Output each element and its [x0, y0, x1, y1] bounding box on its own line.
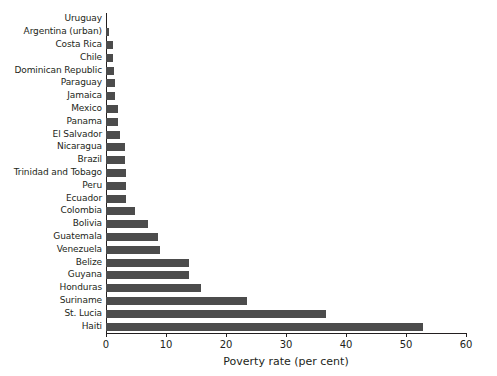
x-axis-tick — [166, 333, 167, 337]
x-axis-tick — [106, 333, 107, 337]
category-label: Trinidad and Tobago — [0, 168, 102, 177]
category-label: Jamaica — [0, 91, 102, 100]
bar-row — [106, 179, 466, 192]
bar-row — [106, 205, 466, 218]
category-label: El Salvador — [0, 130, 102, 139]
bar — [106, 105, 118, 113]
category-label: St. Lucia — [0, 309, 102, 318]
category-label: Nicaragua — [0, 142, 102, 151]
x-axis-tick-label: 40 — [331, 339, 361, 350]
bar — [106, 207, 135, 215]
category-label: Peru — [0, 181, 102, 190]
category-label: Paraguay — [0, 78, 102, 87]
bar — [106, 271, 189, 279]
x-axis-title: Poverty rate (per cent) — [106, 355, 466, 368]
bar — [106, 233, 158, 241]
x-axis-tick-label: 10 — [151, 339, 181, 350]
bar — [106, 323, 423, 331]
x-axis-tick — [346, 333, 347, 337]
x-axis-tick — [466, 333, 467, 337]
bar-row — [106, 282, 466, 295]
x-axis-tick-label: 20 — [211, 339, 241, 350]
bar-row — [106, 103, 466, 116]
bar-row — [106, 115, 466, 128]
bar — [106, 220, 148, 228]
bar — [106, 67, 114, 75]
bar — [106, 310, 326, 318]
category-label: Suriname — [0, 296, 102, 305]
x-axis-tick — [286, 333, 287, 337]
category-label: Ecuador — [0, 194, 102, 203]
x-axis-tick — [226, 333, 227, 337]
bar-row — [106, 26, 466, 39]
x-axis-tick-label: 0 — [91, 339, 121, 350]
category-label: Costa Rica — [0, 40, 102, 49]
bar-row — [106, 64, 466, 77]
bar — [106, 41, 113, 49]
category-label: Colombia — [0, 206, 102, 215]
bar — [106, 54, 113, 62]
bar-row — [106, 13, 466, 26]
category-label: Mexico — [0, 104, 102, 113]
category-label: Haiti — [0, 322, 102, 331]
bar — [106, 195, 126, 203]
bar-row — [106, 154, 466, 167]
category-label: Dominican Republic — [0, 66, 102, 75]
bar — [106, 182, 126, 190]
bar-row — [106, 295, 466, 308]
category-label: Belize — [0, 258, 102, 267]
category-label: Venezuela — [0, 245, 102, 254]
bar — [106, 284, 201, 292]
bar — [106, 259, 189, 267]
category-label: Honduras — [0, 283, 102, 292]
category-label: Guatemala — [0, 232, 102, 241]
category-label: Uruguay — [0, 14, 102, 23]
bar-row — [106, 269, 466, 282]
bar-row — [106, 231, 466, 244]
bar-row — [106, 77, 466, 90]
bar-row — [106, 192, 466, 205]
category-label: Argentina (urban) — [0, 27, 102, 36]
bar — [106, 246, 160, 254]
bar — [106, 169, 126, 177]
category-label: Bolivia — [0, 219, 102, 228]
bar-row — [106, 51, 466, 64]
category-label: Brazil — [0, 155, 102, 164]
x-axis-tick-label: 30 — [271, 339, 301, 350]
bar — [106, 92, 115, 100]
bar-row — [106, 141, 466, 154]
bar — [106, 131, 120, 139]
bar-row — [106, 218, 466, 231]
bar-row — [106, 243, 466, 256]
x-axis-tick — [406, 333, 407, 337]
bar-row — [106, 307, 466, 320]
x-axis-tick-label: 60 — [451, 339, 481, 350]
bar — [106, 118, 118, 126]
bar-row — [106, 128, 466, 141]
category-label: Chile — [0, 53, 102, 62]
bar-row — [106, 256, 466, 269]
bar — [106, 156, 125, 164]
bar-row — [106, 90, 466, 103]
category-label: Guyana — [0, 270, 102, 279]
bar — [106, 79, 115, 87]
poverty-rate-bar-chart: UruguayArgentina (urban)Costa RicaChileD… — [0, 0, 497, 376]
bar-row — [106, 39, 466, 52]
bar-row — [106, 320, 466, 333]
bar — [106, 297, 247, 305]
category-label: Panama — [0, 117, 102, 126]
bar — [106, 143, 125, 151]
bar — [106, 28, 109, 36]
x-axis-tick-label: 50 — [391, 339, 421, 350]
bar-row — [106, 167, 466, 180]
